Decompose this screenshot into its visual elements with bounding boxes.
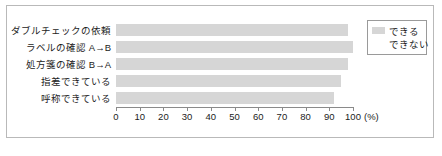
category-label: ラベルの確認 A→B — [26, 39, 111, 56]
category-label: 処方箋の確認 B→A — [26, 56, 111, 73]
bar-row: 呼称できている — [116, 90, 353, 107]
legend-swatch-icon — [372, 40, 385, 47]
legend-item-dekinai: できない — [372, 37, 422, 50]
chart-figure: ダブルチェックの依頼 ラベルの確認 A→B 処方箋の確認 B→A 指差できている… — [6, 5, 434, 138]
category-label: 指差できている — [41, 73, 111, 90]
bar-row: ラベルの確認 A→B — [116, 39, 353, 56]
legend-label: できる — [389, 24, 419, 38]
legend-item-dekiru: できる — [372, 24, 422, 37]
bar-row: 指差できている — [116, 73, 353, 90]
bar-segment-dekiru — [116, 24, 348, 36]
bar-segment-dekiru — [116, 75, 341, 87]
bar-segment-dekiru — [116, 92, 334, 104]
category-label: 呼称できている — [41, 90, 111, 107]
chart-legend: できる できない — [367, 20, 427, 55]
legend-swatch-icon — [372, 27, 385, 34]
category-label: ダブルチェックの依頼 — [11, 22, 111, 39]
x-axis-unit-label: (%) — [364, 111, 379, 122]
bar-row: 処方箋の確認 B→A — [116, 56, 353, 73]
plot-area: ダブルチェックの依頼 ラベルの確認 A→B 処方箋の確認 B→A 指差できている… — [116, 22, 353, 107]
legend-label: できない — [389, 37, 429, 51]
bar-segment-dekiru — [116, 41, 353, 53]
bar-row: ダブルチェックの依頼 — [116, 22, 353, 39]
bar-segment-dekiru — [116, 58, 348, 70]
